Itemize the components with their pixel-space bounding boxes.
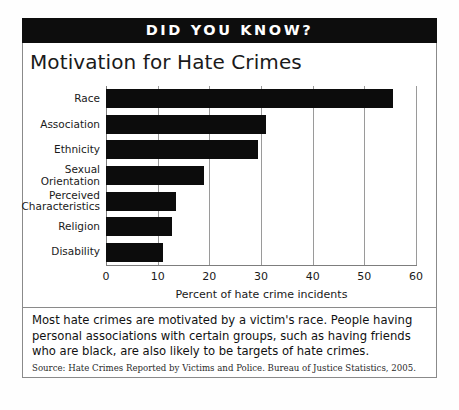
x-axis-line (106, 265, 417, 266)
bar-fill (106, 217, 172, 236)
x-tick-label: 60 (409, 270, 423, 283)
gridline (209, 86, 210, 265)
x-tick-label: 50 (357, 270, 371, 283)
gridline (261, 86, 262, 265)
category-label: Religion (0, 221, 100, 233)
bar-2 (106, 115, 266, 134)
bar-fill (106, 89, 393, 108)
chart-title: Motivation for Hate Crimes (30, 50, 302, 74)
bar-fill (106, 192, 176, 211)
bar-1 (106, 89, 393, 108)
gridline (364, 86, 365, 265)
section-divider (22, 307, 437, 308)
category-label: Disability (0, 246, 100, 258)
bar-5 (106, 192, 176, 211)
did-you-know-infographic: DID YOU KNOW? Motivation for Hate Crimes… (0, 0, 459, 410)
x-tick-label: 30 (254, 270, 268, 283)
x-tick-label: 20 (202, 270, 216, 283)
caption-text: Most hate crimes are motivated by a vict… (32, 313, 422, 360)
gridline (313, 86, 314, 265)
category-label: Ethnicity (0, 144, 100, 156)
category-label: Race (0, 93, 100, 105)
bar-3 (106, 140, 258, 159)
bar-fill (106, 243, 163, 262)
category-label: Association (0, 119, 100, 131)
bar-4 (106, 166, 204, 185)
category-label: SexualOrientation (0, 164, 100, 187)
x-tick-label: 40 (306, 270, 320, 283)
bar-fill (106, 166, 204, 185)
chart-plot-area (106, 86, 416, 265)
x-tick-label: 0 (103, 270, 110, 283)
bar-fill (106, 115, 266, 134)
did-you-know-banner: DID YOU KNOW? (22, 18, 437, 43)
source-text: Source: Hate Crimes Reported by Victims … (32, 363, 427, 374)
x-axis-title: Percent of hate crime incidents (106, 288, 417, 301)
banner-title: DID YOU KNOW? (146, 23, 314, 38)
category-label: PerceivedCharacteristics (0, 190, 100, 213)
bar-6 (106, 217, 172, 236)
chart-category-labels: RaceAssociationEthnicitySexualOrientatio… (0, 86, 100, 265)
bar-fill (106, 140, 258, 159)
bar-7 (106, 243, 163, 262)
x-tick-label: 10 (151, 270, 165, 283)
gridline (416, 86, 417, 265)
